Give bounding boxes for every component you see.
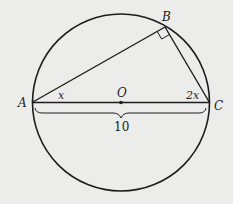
label-A: A <box>17 96 27 110</box>
angle-label-x: x <box>58 89 65 102</box>
label-B: B <box>161 10 171 24</box>
geometry-diagram: A B C O x 2x 10 <box>0 0 233 204</box>
label-C: C <box>214 99 223 113</box>
segment-AB <box>32 27 165 103</box>
center-point-O <box>119 101 123 105</box>
diameter-brace <box>35 108 206 118</box>
diameter-length-label: 10 <box>114 120 129 134</box>
label-O: O <box>117 86 127 100</box>
angle-label-2x: 2x <box>185 89 200 102</box>
